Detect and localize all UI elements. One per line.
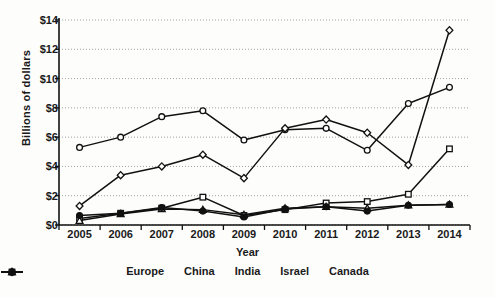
chart-legend: EuropeChinaIndiaIsraelCanada bbox=[0, 266, 495, 277]
line-chart: Billions of dollars Year $0$2$4$6$8$10$1… bbox=[0, 0, 495, 297]
legend-label: China bbox=[184, 266, 215, 277]
legend-label: Europe bbox=[126, 266, 164, 277]
legend-item[interactable]: China bbox=[184, 266, 215, 277]
legend-label: Canada bbox=[329, 266, 369, 277]
legend-item[interactable]: Israel bbox=[280, 266, 309, 277]
legend-label: Israel bbox=[280, 266, 309, 277]
plot-area bbox=[0, 0, 495, 297]
legend-item[interactable]: Europe bbox=[126, 266, 164, 277]
circle-filled-icon bbox=[0, 266, 24, 278]
legend-label: India bbox=[235, 266, 261, 277]
legend-item[interactable]: Canada bbox=[329, 266, 369, 277]
legend-item[interactable]: India bbox=[235, 266, 261, 277]
